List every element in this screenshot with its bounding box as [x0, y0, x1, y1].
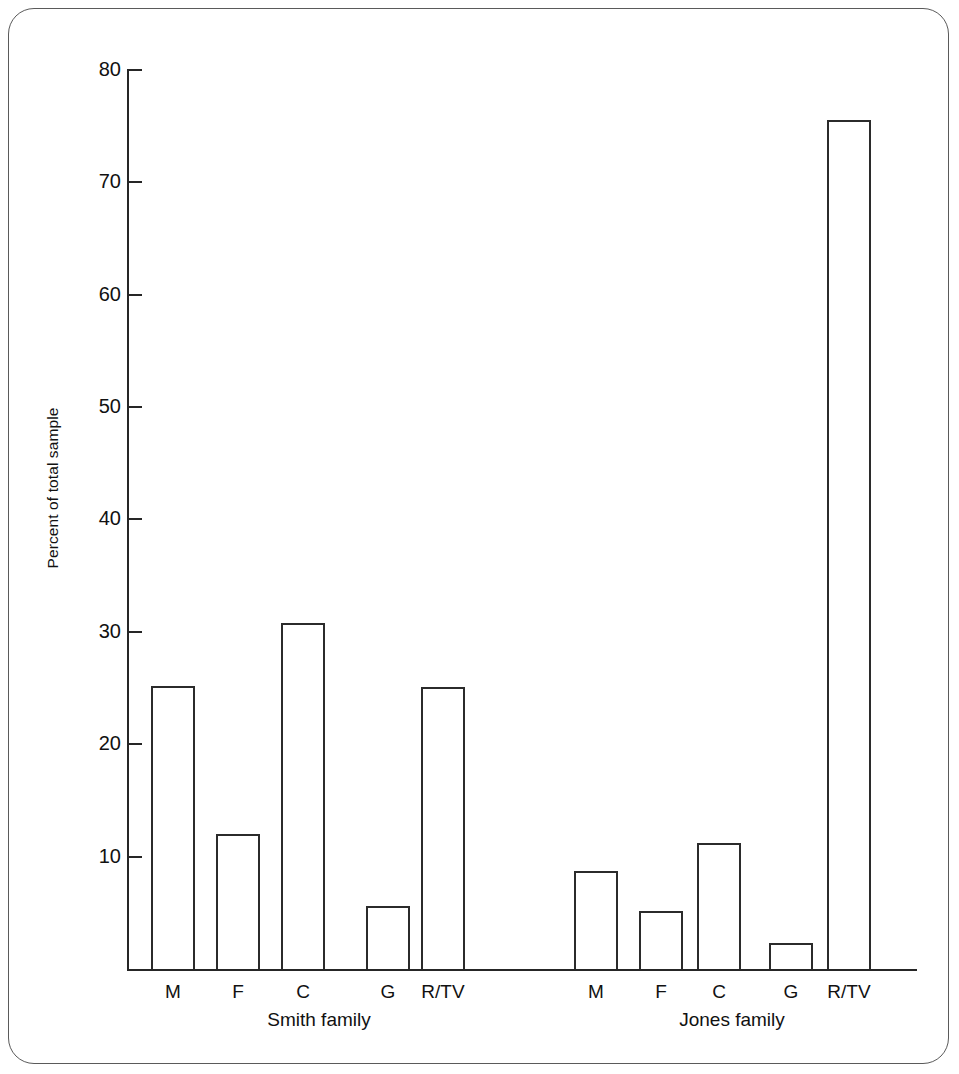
y-tick-label-text: 20	[77, 733, 121, 753]
y-tick-label: 60	[65, 284, 121, 304]
y-tick-mark	[129, 631, 142, 633]
y-tick-mark	[129, 181, 142, 183]
bar-smith-rtv	[421, 687, 465, 969]
y-tick-mark	[129, 294, 142, 296]
bar-jones-f	[639, 911, 683, 969]
bar-jones-c	[697, 843, 741, 969]
bar-smith-m	[151, 686, 195, 969]
y-tick-mark	[129, 69, 142, 71]
y-tick-mark	[129, 743, 142, 745]
bar-chart-plot-area: Percent of total sample 8070605040302010…	[9, 9, 950, 1065]
x-tick-label-jones-c: C	[679, 981, 759, 1003]
y-axis-title: Percent of total sample	[44, 338, 62, 638]
y-tick-mark	[129, 518, 142, 520]
y-tick-mark	[129, 406, 142, 408]
y-tick-label: 80	[65, 59, 121, 79]
bar-smith-c	[281, 623, 325, 969]
y-tick-mark	[129, 856, 142, 858]
x-tick-label-jones-rtv: R/TV	[809, 981, 889, 1003]
bar-smith-g	[366, 906, 410, 969]
x-tick-label-smith-rtv: R/TV	[403, 981, 483, 1003]
bar-jones-rtv	[827, 120, 871, 969]
y-tick-label-text: 80	[77, 59, 121, 79]
y-tick-label-text: 50	[77, 396, 121, 416]
y-tick-label: 40	[65, 508, 121, 528]
y-tick-label-text: 60	[77, 284, 121, 304]
y-tick-label: 70	[65, 171, 121, 191]
group-label-smith: Smith family	[209, 1009, 429, 1031]
y-tick-label: 20	[65, 733, 121, 753]
x-axis-line	[127, 969, 917, 971]
y-tick-label-text: 30	[77, 621, 121, 641]
group-label-jones: Jones family	[622, 1009, 842, 1031]
bar-smith-f	[216, 834, 260, 969]
y-tick-label-text: 10	[77, 846, 121, 866]
y-tick-label: 10	[65, 846, 121, 866]
figure-frame: Percent of total sample 8070605040302010…	[8, 8, 949, 1064]
y-tick-label: 30	[65, 621, 121, 641]
bar-jones-m	[574, 871, 618, 969]
y-tick-label: 50	[65, 396, 121, 416]
x-tick-label-smith-c: C	[263, 981, 343, 1003]
y-tick-label-text: 40	[77, 508, 121, 528]
y-tick-label-text: 70	[77, 171, 121, 191]
bar-jones-g	[769, 943, 813, 969]
